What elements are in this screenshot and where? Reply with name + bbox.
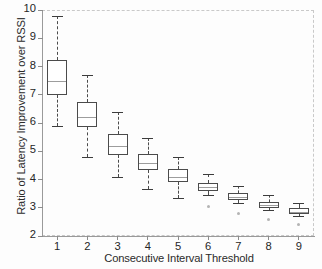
y-tick <box>38 123 43 124</box>
box-iqr <box>138 154 158 170</box>
median-line <box>78 117 96 118</box>
y-tick <box>38 38 43 39</box>
median-line <box>169 177 187 178</box>
y-tick <box>38 207 43 208</box>
y-tick <box>38 236 43 237</box>
y-tick <box>38 94 43 95</box>
whisker-cap-lower <box>112 177 123 178</box>
median-line <box>260 205 278 206</box>
whisker-cap-upper <box>52 16 63 17</box>
median-line <box>109 146 127 147</box>
whisker-lower <box>178 182 179 198</box>
box-iqr <box>108 134 128 156</box>
median-line <box>48 81 66 82</box>
whisker-cap-upper <box>233 186 244 187</box>
x-tick-label: 1 <box>46 240 68 252</box>
whisker-upper <box>87 75 88 102</box>
x-tick-label: 5 <box>167 240 189 252</box>
y-tick <box>38 66 43 67</box>
y-tick <box>38 151 43 152</box>
x-tick-label: 6 <box>197 240 219 252</box>
whisker-upper <box>178 157 179 169</box>
y-tick <box>38 179 43 180</box>
whisker-upper <box>57 16 58 61</box>
x-tick-label: 7 <box>227 240 249 252</box>
whisker-lower <box>87 127 88 157</box>
x-tick-label: 3 <box>107 240 129 252</box>
median-line <box>229 197 247 198</box>
whisker-cap-upper <box>173 157 184 158</box>
whisker-cap-upper <box>293 203 304 204</box>
whisker-cap-lower <box>52 126 63 127</box>
whisker-upper <box>118 112 119 134</box>
y-tick <box>38 10 43 11</box>
whisker-cap-lower <box>82 157 93 158</box>
y-axis-title: Ratio of Latency Improvement over RSSI <box>15 0 29 234</box>
whisker-cap-lower <box>293 216 304 217</box>
whisker-cap-lower <box>203 195 214 196</box>
median-line <box>139 163 157 164</box>
box-iqr <box>168 169 188 181</box>
whisker-cap-upper <box>112 112 123 113</box>
whisker-cap-lower <box>173 198 184 199</box>
whisker-cap-upper <box>203 174 214 175</box>
box-iqr <box>47 60 67 94</box>
x-tick-label: 8 <box>258 240 280 252</box>
whisker-lower <box>118 155 119 176</box>
boxplot-figure: 1098765432 123456789 Ratio of Latency Im… <box>0 0 322 269</box>
x-tick-label: 9 <box>288 240 310 252</box>
x-axis-title: Consecutive Interval Threshold <box>36 252 322 266</box>
box-iqr <box>77 102 97 127</box>
whisker-upper <box>208 174 209 183</box>
whisker-upper <box>148 138 149 154</box>
x-tick-label: 4 <box>137 240 159 252</box>
whisker-lower <box>57 95 58 126</box>
whisker-cap-lower <box>142 189 153 190</box>
whisker-upper <box>238 186 239 193</box>
whisker-cap-upper <box>263 195 274 196</box>
whisker-cap-lower <box>263 210 274 211</box>
median-line <box>199 187 217 188</box>
median-line <box>290 212 308 213</box>
x-tick-label: 2 <box>76 240 98 252</box>
whisker-cap-upper <box>142 138 153 139</box>
whisker-cap-upper <box>82 75 93 76</box>
whisker-cap-lower <box>233 203 244 204</box>
outlier-point <box>207 205 210 208</box>
whisker-lower <box>148 170 149 189</box>
